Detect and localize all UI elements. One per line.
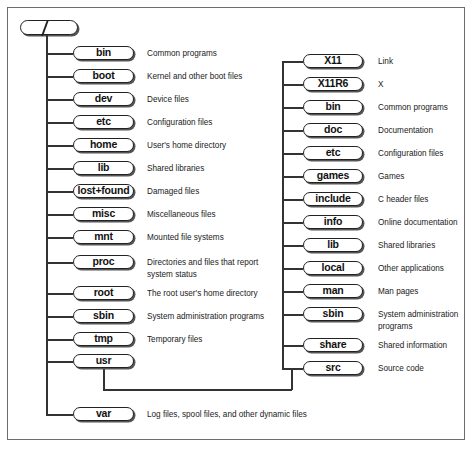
directory-node: root (73, 286, 134, 300)
directory-node: boot (73, 69, 134, 83)
directory-description: Device files (147, 93, 189, 104)
directory-description: Miscellaneous files (147, 208, 216, 219)
branch-connector (282, 245, 303, 247)
branch-connector (46, 191, 73, 193)
directory-node: usr (73, 354, 134, 368)
directory-description: User's home directory (147, 139, 226, 150)
directory-description-continued: system status (147, 268, 197, 279)
directory-node: etc (73, 115, 134, 129)
directory-description: Documentation (378, 124, 433, 135)
directory-description: Games (378, 170, 404, 181)
directory-node: include (303, 192, 363, 206)
directory-node: mnt (73, 230, 134, 244)
directory-description: Directories and files that report (147, 256, 258, 267)
directory-node: lib (303, 238, 363, 252)
directory-node: sbin (303, 307, 363, 321)
usr-drop-line (103, 368, 105, 390)
branch-connector (282, 107, 303, 109)
directory-description: The root user's home directory (147, 287, 258, 298)
root-trunk-line (46, 35, 48, 415)
branch-connector (282, 291, 303, 293)
directory-description: Configuration files (147, 116, 212, 127)
directory-description: System administration (378, 308, 458, 319)
branch-connector (282, 345, 303, 347)
directory-node: tmp (73, 332, 134, 346)
directory-node: X11 (303, 54, 363, 68)
branch-connector (46, 414, 73, 416)
directory-node: lost+found (73, 184, 134, 198)
branch-connector (282, 176, 303, 178)
directory-description: Shared information (378, 339, 447, 350)
branch-connector (282, 368, 303, 370)
directory-node: lib (73, 161, 134, 175)
directory-node: misc (73, 207, 134, 221)
directory-description: Mounted file systems (147, 231, 224, 242)
branch-connector (46, 168, 73, 170)
branch-connector (282, 130, 303, 132)
root-directory-node (20, 20, 78, 35)
directory-node: dev (73, 92, 134, 106)
usr-horizontal-line (103, 389, 292, 391)
directory-description-continued: programs (378, 320, 413, 331)
directory-description: Online documentation (378, 216, 457, 227)
branch-connector (46, 316, 73, 318)
directory-node: info (303, 215, 363, 229)
branch-connector (46, 122, 73, 124)
directory-description: Link (378, 55, 393, 66)
directory-node: bin (303, 100, 363, 114)
branch-connector (46, 262, 73, 264)
branch-connector (282, 153, 303, 155)
directory-description: Log files, spool files, and other dynami… (147, 408, 307, 419)
directory-description: C header files (378, 193, 428, 204)
branch-connector (46, 237, 73, 239)
directory-description: Damaged files (147, 185, 199, 196)
branch-connector (46, 339, 73, 341)
directory-description: Other applications (378, 262, 444, 273)
directory-description: Shared libraries (147, 162, 204, 173)
branch-connector (282, 84, 303, 86)
branch-connector (46, 76, 73, 78)
directory-node: games (303, 169, 363, 183)
directory-node: share (303, 338, 363, 352)
branch-connector (46, 145, 73, 147)
branch-connector (46, 293, 73, 295)
usr-rise-line (291, 368, 293, 390)
branch-connector (282, 222, 303, 224)
directory-description: Temporary files (147, 333, 202, 344)
branch-connector (282, 268, 303, 270)
directory-node: sbin (73, 309, 134, 323)
directory-description: X (378, 78, 383, 89)
directory-node: etc (303, 146, 363, 160)
branch-connector (46, 99, 73, 101)
directory-description: Source code (378, 362, 424, 373)
directory-description: Shared libraries (378, 239, 435, 250)
directory-description: Common programs (378, 101, 448, 112)
directory-node: doc (303, 123, 363, 137)
directory-node: home (73, 138, 134, 152)
directory-description: Configuration files (378, 147, 443, 158)
branch-connector (282, 199, 303, 201)
directory-node: src (303, 361, 363, 375)
directory-node: bin (73, 46, 134, 60)
directory-description: Man pages (378, 285, 418, 296)
branch-connector (282, 61, 303, 63)
directory-node: X11R6 (303, 77, 363, 91)
directory-node: proc (73, 255, 134, 269)
directory-description: Common programs (147, 47, 217, 58)
directory-node: man (303, 284, 363, 298)
branch-connector (282, 314, 303, 316)
branch-connector (46, 53, 73, 55)
branch-connector (46, 214, 73, 216)
directory-node: var (73, 407, 134, 421)
branch-connector (46, 361, 73, 363)
directory-node: local (303, 261, 363, 275)
directory-description: Kernel and other boot files (147, 70, 242, 81)
directory-description: System administration programs (147, 310, 264, 321)
